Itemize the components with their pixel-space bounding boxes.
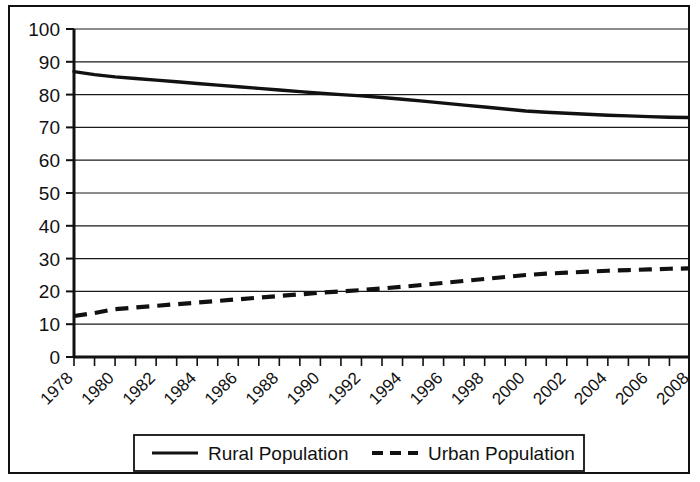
y-tick-label: 40 — [39, 216, 60, 237]
y-tick-label: 0 — [49, 347, 60, 368]
x-tick-label: 2002 — [529, 368, 569, 408]
y-tick-label: 60 — [39, 150, 60, 171]
x-tick-label: 1998 — [447, 368, 487, 408]
x-tick-label: 1988 — [242, 368, 282, 408]
x-tick-label: 2004 — [571, 368, 611, 408]
x-tick-label: 1992 — [324, 368, 364, 408]
x-tick-label: 1978 — [37, 368, 77, 408]
data-series — [74, 72, 688, 316]
line-chart: 0102030405060708090100 19781980198219841… — [10, 7, 688, 472]
x-tick-label: 2000 — [488, 368, 528, 408]
y-tick-label: 10 — [39, 314, 60, 335]
chart-frame: 0102030405060708090100 19781980198219841… — [8, 5, 690, 474]
x-tick-label: 1994 — [365, 368, 405, 408]
chart-page: 0102030405060708090100 19781980198219841… — [0, 0, 700, 482]
chart-legend: Rural PopulationUrban Population — [134, 435, 584, 471]
x-tick-label: 1980 — [78, 368, 118, 408]
y-tick-label: 80 — [39, 85, 60, 106]
y-tick-label: 30 — [39, 249, 60, 270]
y-tick-label: 100 — [28, 19, 60, 40]
y-tick-label: 20 — [39, 281, 60, 302]
x-axis-labels: 1978198019821984198619881990199219941996… — [37, 368, 688, 408]
y-tick-label: 90 — [39, 52, 60, 73]
x-tick-label: 1986 — [201, 368, 241, 408]
legend-label: Urban Population — [428, 443, 575, 464]
x-tick-label: 1982 — [119, 368, 159, 408]
y-tick-label: 50 — [39, 183, 60, 204]
y-axis: 0102030405060708090100 — [28, 19, 74, 368]
legend-label: Rural Population — [208, 443, 348, 464]
y-tick-label: 70 — [39, 117, 60, 138]
gridlines — [74, 29, 688, 324]
x-tick-label: 1984 — [160, 368, 200, 408]
series-line-urban — [74, 268, 688, 316]
x-tick-label: 2008 — [653, 368, 688, 408]
x-tick-label: 2006 — [612, 368, 652, 408]
x-tick-label: 1990 — [283, 368, 323, 408]
x-tick-label: 1996 — [406, 368, 446, 408]
